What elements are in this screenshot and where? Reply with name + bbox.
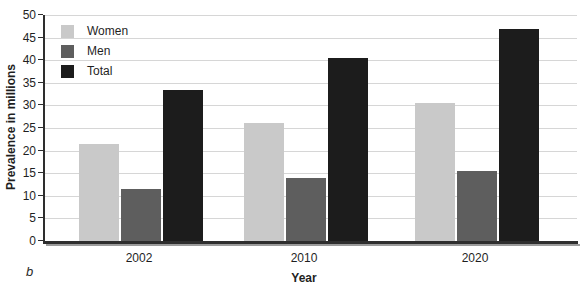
- y-tick-mark-0: [38, 240, 43, 241]
- y-tick-label-40: 40: [2, 53, 36, 67]
- bar-chart-figure: Prevalence in millions WomenMenTotal Yea…: [0, 0, 582, 296]
- x-axis-shadow: [46, 244, 580, 246]
- x-axis-title: Year: [254, 271, 354, 285]
- gridline-40: [45, 60, 577, 61]
- gridline-50: [45, 15, 577, 16]
- legend-item-men: Men: [61, 41, 128, 61]
- bar-total-2020: [499, 29, 539, 241]
- y-tick-mark-40: [38, 59, 43, 60]
- y-tick-mark-30: [38, 104, 43, 105]
- legend-label-total: Total: [87, 64, 112, 78]
- gridline-45: [45, 38, 577, 39]
- bar-men-2002: [121, 189, 161, 241]
- bar-men-2010: [286, 178, 326, 241]
- bar-men-2020: [457, 171, 497, 241]
- y-tick-mark-20: [38, 150, 43, 151]
- x-tick-label-2010: 2010: [242, 251, 366, 265]
- y-tick-label-50: 50: [2, 8, 36, 22]
- plot-area: WomenMenTotal: [43, 15, 577, 241]
- y-tick-mark-45: [38, 37, 43, 38]
- legend-swatch-total: [61, 65, 74, 78]
- x-tick-label-2002: 2002: [77, 251, 201, 265]
- y-tick-label-45: 45: [2, 31, 36, 45]
- bar-women-2020: [415, 103, 455, 241]
- gridline-30: [45, 105, 577, 106]
- x-tick-label-2020: 2020: [413, 251, 537, 265]
- y-tick-label-5: 5: [2, 211, 36, 225]
- legend-item-total: Total: [61, 61, 128, 81]
- y-tick-label-25: 25: [2, 121, 36, 135]
- gridline-35: [45, 83, 577, 84]
- legend-label-men: Men: [87, 44, 110, 58]
- legend: WomenMenTotal: [61, 21, 128, 81]
- y-tick-label-15: 15: [2, 166, 36, 180]
- bar-total-2010: [328, 58, 368, 241]
- y-tick-mark-10: [38, 195, 43, 196]
- y-tick-mark-15: [38, 172, 43, 173]
- legend-label-women: Women: [87, 24, 128, 38]
- legend-swatch-men: [61, 45, 74, 58]
- bar-total-2002: [163, 90, 203, 241]
- panel-label: b: [26, 264, 33, 279]
- y-tick-label-20: 20: [2, 144, 36, 158]
- y-tick-mark-50: [38, 14, 43, 15]
- gridline-20: [45, 151, 577, 152]
- y-tick-label-30: 30: [2, 98, 36, 112]
- y-tick-label-0: 0: [2, 234, 36, 248]
- bar-women-2010: [244, 123, 284, 241]
- bar-women-2002: [79, 144, 119, 241]
- y-tick-mark-35: [38, 82, 43, 83]
- y-tick-label-35: 35: [2, 76, 36, 90]
- legend-swatch-women: [61, 25, 74, 38]
- gridline-15: [45, 173, 577, 174]
- y-tick-mark-5: [38, 217, 43, 218]
- y-tick-label-10: 10: [2, 189, 36, 203]
- gridline-25: [45, 128, 577, 129]
- y-tick-mark-25: [38, 127, 43, 128]
